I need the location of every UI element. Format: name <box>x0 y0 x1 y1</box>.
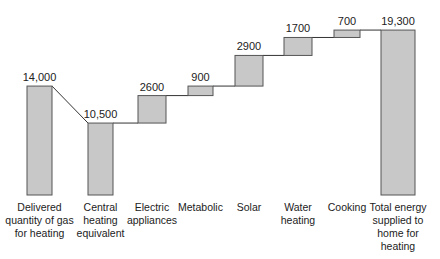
bar-5 <box>284 37 312 55</box>
bar-0 <box>27 86 52 195</box>
category-label-1: Centralheatingequivalent <box>77 201 125 239</box>
category-label-3: Metabolic <box>178 201 223 213</box>
value-label-2: 2600 <box>140 81 164 93</box>
bar-6 <box>334 30 360 37</box>
category-label-line: heating <box>83 214 118 226</box>
category-label-line: Metabolic <box>178 201 223 213</box>
waterfall-chart: 14,00010,50026009002900170070019,300 Del… <box>0 0 440 259</box>
category-label-line: Cooking <box>328 201 367 213</box>
category-label-2: Electricappliances <box>127 201 177 226</box>
category-label-line: Total energy <box>369 201 427 213</box>
category-label-line: Electric <box>135 201 169 213</box>
value-label-3: 900 <box>191 71 209 83</box>
category-label-line: heating <box>381 240 416 252</box>
category-label-line: supplied to <box>373 214 424 226</box>
category-label-line: Water <box>284 201 312 213</box>
value-label-7: 19,300 <box>381 15 415 27</box>
value-label-6: 700 <box>338 15 356 27</box>
bar-3 <box>188 86 213 96</box>
category-label-line: for heating <box>15 227 65 239</box>
category-label-line: Solar <box>237 201 262 213</box>
bar-2 <box>138 96 166 123</box>
value-label-5: 1700 <box>286 22 310 34</box>
category-label-6: Cooking <box>328 201 367 213</box>
category-label-line: equivalent <box>77 227 125 239</box>
bar-1 <box>88 123 113 195</box>
category-label-line: appliances <box>127 214 177 226</box>
category-label-7: Total energysupplied tohome forheating <box>369 201 427 252</box>
value-label-4: 2900 <box>237 40 261 52</box>
value-label-0: 14,000 <box>23 71 57 83</box>
category-labels: Deliveredquantity of gasfor heatingCentr… <box>5 201 427 252</box>
bar-7 <box>381 30 415 195</box>
connector-0 <box>52 86 88 123</box>
category-label-line: heating <box>281 214 316 226</box>
category-label-4: Solar <box>237 201 262 213</box>
category-label-line: quantity of gas <box>5 214 73 226</box>
bar-4 <box>235 55 263 86</box>
category-label-line: Central <box>84 201 118 213</box>
category-label-5: Waterheating <box>281 201 316 226</box>
category-label-line: Delivered <box>17 201 62 213</box>
category-label-line: home for <box>377 227 419 239</box>
category-label-0: Deliveredquantity of gasfor heating <box>5 201 73 239</box>
value-label-1: 10,500 <box>84 108 118 120</box>
